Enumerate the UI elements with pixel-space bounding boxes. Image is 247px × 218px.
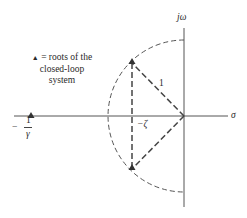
upper-root-marker-icon <box>129 58 136 64</box>
imaginary-axis-label: jω <box>177 12 186 23</box>
pole-denominator: γ <box>26 129 30 139</box>
root-locus-diagram <box>0 0 247 218</box>
lower-root-marker-icon <box>129 164 136 170</box>
upper-radius-line <box>132 63 184 116</box>
legend: ▲ = roots of the closed-loop system <box>26 52 98 86</box>
zeta-label: −ζ <box>137 119 147 130</box>
legend-triangle-icon: ▲ <box>32 54 39 62</box>
pole-numerator: 1 <box>26 115 31 125</box>
fraction-bar <box>24 127 32 128</box>
real-axis-label: σ <box>231 110 236 121</box>
radius-label: 1 <box>159 78 164 89</box>
pole-minus: − <box>12 122 17 132</box>
legend-text: = roots of the closed-loop system <box>40 52 92 85</box>
